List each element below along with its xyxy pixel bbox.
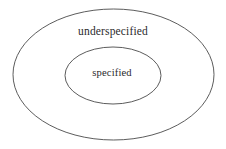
inner-region-label: specified (0, 66, 224, 79)
venn-diagram-figure: underspecified specified (0, 0, 226, 149)
outer-region-label: underspecified (0, 25, 226, 38)
